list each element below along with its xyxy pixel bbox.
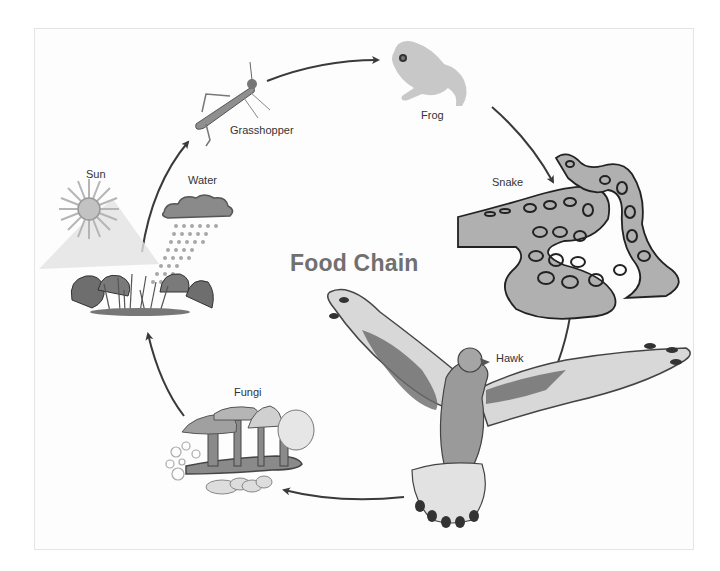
frog-icon [392, 41, 467, 106]
label-hawk: Hawk [496, 352, 524, 364]
label-grasshopper: Grasshopper [230, 124, 294, 136]
rain-cloud-icon [151, 195, 233, 284]
arrow-frog-to-snake [492, 107, 553, 182]
label-fungi: Fungi [234, 386, 262, 398]
label-frog: Frog [421, 109, 444, 121]
mushroom-icon [166, 406, 314, 494]
food-chain-diagram [0, 0, 720, 571]
arrow-fungi-to-plants [148, 334, 184, 416]
arrow-hawk-to-fungi [284, 490, 404, 499]
diagram-title: Food Chain [290, 250, 418, 277]
sun-icon [39, 179, 159, 269]
label-sun: Sun [86, 168, 106, 180]
arrow-grasshopper-to-frog [267, 60, 378, 81]
label-water: Water [188, 174, 217, 186]
plants-icon [71, 274, 213, 316]
label-snake: Snake [492, 176, 523, 188]
hawk-icon [328, 290, 690, 529]
